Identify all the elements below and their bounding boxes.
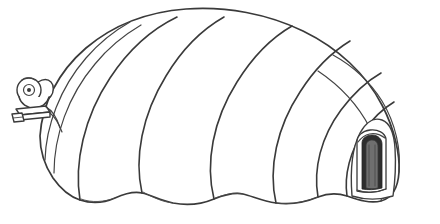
blower-hub [27,88,31,92]
illustration-root: Inflatable Dome Tent ribbed inflatable d… [0,0,440,224]
dome-tent-drawing [0,0,440,224]
door-leaf [366,140,378,189]
